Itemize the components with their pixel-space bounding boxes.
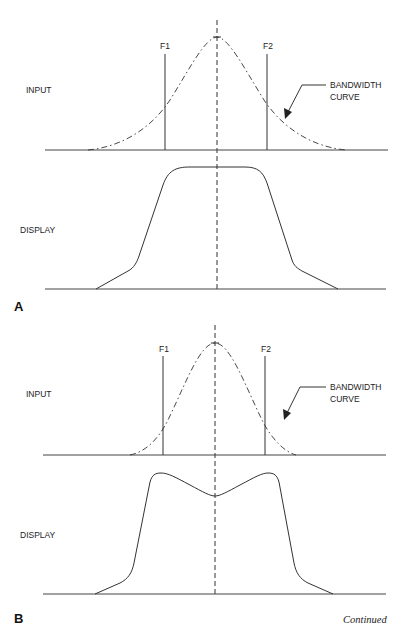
- display-label-b: DISPLAY: [20, 530, 56, 540]
- bandwidth-curve-b: [130, 343, 296, 455]
- arrow-icon: [284, 85, 326, 119]
- display-label-a: DISPLAY: [20, 225, 56, 235]
- bandwidth-label-a-line1: BANDWIDTH: [330, 80, 381, 90]
- bandwidth-label-b-line1: BANDWIDTH: [330, 382, 381, 392]
- arrow-icon: [283, 387, 326, 420]
- input-label-b: INPUT: [26, 389, 52, 399]
- f1-label-b: F1: [159, 344, 169, 354]
- panel-b: F1 F2 INPUT BANDWIDTH CURVE DISPLAY B Co…: [14, 325, 387, 626]
- continued-note: Continued: [343, 614, 387, 625]
- display-curve-b: [95, 473, 333, 594]
- f2-label-b: F2: [261, 344, 271, 354]
- panel-a: F1 F2 INPUT BANDWIDTH CURVE DISPLAY A: [14, 20, 388, 314]
- f1-label-a: F1: [160, 41, 170, 51]
- bandwidth-label-b-line2: CURVE: [330, 394, 360, 404]
- panel-label-a: A: [14, 299, 24, 314]
- f2-label-a: F2: [263, 41, 273, 51]
- input-label-a: INPUT: [26, 85, 52, 95]
- panel-label-b: B: [14, 611, 23, 626]
- bandwidth-diagram: F1 F2 INPUT BANDWIDTH CURVE DISPLAY A: [0, 0, 405, 635]
- bandwidth-label-a-line2: CURVE: [330, 92, 360, 102]
